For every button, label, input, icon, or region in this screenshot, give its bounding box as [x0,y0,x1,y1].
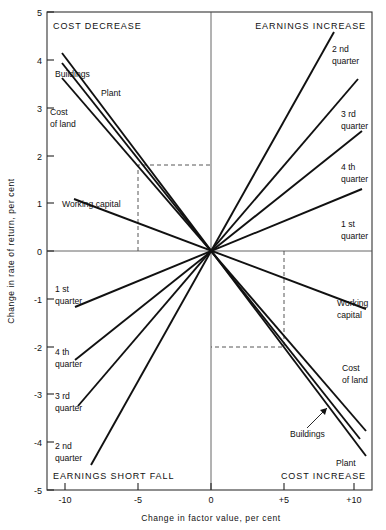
y-tick-m3: -3 [34,390,42,400]
label-cost-of-land-upper-line2: of land [50,119,76,129]
label-working-capital-upper: Working capital [62,199,121,209]
y-tick-m5: -5 [34,486,42,496]
y-tick-4: 4 [37,56,42,66]
label-q3-upper-line1: 3 rd [341,109,356,119]
label-q2-upper-line2: quarter [332,56,359,66]
label-q3-lower-line2: quarter [55,403,82,413]
y-tick-3: 3 [37,104,42,114]
label-q3-lower-line1: 3 rd [55,391,70,401]
label-q1-lower-line2: quarter [55,296,82,306]
x-tick-0: 0 [208,495,213,505]
x-tick-m10: -10 [58,495,71,505]
x-axis-title: Change in factor value, per cent [141,513,281,523]
x-tick-m5: -5 [134,495,142,505]
y-axis-tick-labels: 5 4 3 2 1 0 -1 -2 -3 -4 -5 [34,8,42,496]
spider-sensitivity-chart: 5 4 3 2 1 0 -1 -2 -3 -4 -5 -10 -5 0 +5 +… [0,0,386,530]
label-q2-lower-line2: quarter [55,453,82,463]
quadrant-label-top-right: EARNINGS INCREASE [255,21,366,31]
y-tick-m1: -1 [34,295,42,305]
y-tick-5: 5 [37,8,42,18]
y-tick-m4: -4 [34,438,42,448]
y-tick-m2: -2 [34,343,42,353]
label-q4-lower-line1: 4 th [55,347,70,357]
label-q2-upper-line1: 2 nd [332,44,349,54]
label-q4-lower-line2: quarter [55,359,82,369]
x-axis-tick-labels: -10 -5 0 +5 +10 [58,495,361,505]
y-tick-2: 2 [37,152,42,162]
label-working-capital-lower-line1: Working [337,298,369,308]
quadrant-label-bottom-left: EARNINGS SHORT FALL [53,471,174,481]
chart-svg: 5 4 3 2 1 0 -1 -2 -3 -4 -5 -10 -5 0 +5 +… [0,0,386,530]
quadrant-label-top-left: COST DECREASE [53,21,142,31]
label-q1-upper-line2: quarter [341,231,368,241]
label-q1-upper-line1: 1 st [341,219,355,229]
label-working-capital-lower-line2: capital [337,310,362,320]
quadrant-label-bottom-right: COST INCREASE [281,471,366,481]
label-q4-upper-line1: 4 th [341,162,356,172]
label-cost-of-land-upper-line1: Cost [50,107,68,117]
label-q2-lower-line1: 2 nd [55,441,72,451]
y-tick-0: 0 [37,247,42,257]
y-axis-title: Change in rate of return, per cent [6,178,16,324]
y-tick-1: 1 [37,199,42,209]
label-cost-of-land-lower-line1: Cost [342,363,360,373]
label-q3-upper-line2: quarter [341,121,368,131]
label-plant-lower: Plant [336,458,356,468]
label-cost-of-land-lower-line2: of land [342,375,368,385]
label-buildings-lower: Buildings [290,429,325,439]
x-tick-p10: +10 [346,495,361,505]
label-q4-upper-line2: quarter [341,174,368,184]
label-buildings-upper: Buildings [55,69,90,79]
x-tick-p5: +5 [279,495,289,505]
label-q1-lower-line1: 1 st [55,284,69,294]
label-plant-upper: Plant [101,88,121,98]
